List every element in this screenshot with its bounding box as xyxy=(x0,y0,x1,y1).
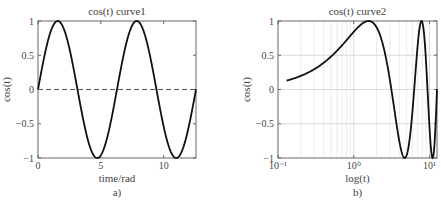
y-tick-label: −1 xyxy=(23,153,34,164)
y-tick-label: −0.5 xyxy=(16,118,34,129)
x-axis-label: time/rad xyxy=(99,172,136,184)
chart-panel-1: 0510−1−0.500.51cos(t) curve1time/rada)co… xyxy=(0,5,196,199)
panel-label: b) xyxy=(353,186,363,199)
y-tick-label: 1 xyxy=(29,16,34,27)
chart-title: cos(t) curve1 xyxy=(88,5,146,18)
y-tick-label: 1 xyxy=(269,16,274,27)
x-tick-label: 10 xyxy=(159,160,169,171)
x-tick-label: 10¹ xyxy=(423,160,436,171)
x-tick-label: 0 xyxy=(36,160,41,171)
chart-title: cos(t) curve2 xyxy=(329,5,387,18)
x-axis-label: log(t) xyxy=(345,172,370,185)
y-axis-label: cos(t) xyxy=(0,77,13,102)
chart-figure: 0510−1−0.500.51cos(t) curve1time/rada)co… xyxy=(0,0,441,211)
y-tick-label: 0.5 xyxy=(262,50,275,61)
curve-line xyxy=(38,21,196,158)
y-tick-label: 0 xyxy=(29,84,34,95)
grid xyxy=(278,21,437,158)
chart-panel-2: 10⁻¹10⁰10¹−1−0.500.51cos(t) curve2log(t)… xyxy=(240,5,437,199)
y-tick-label: 0.5 xyxy=(22,50,35,61)
y-tick-label: 0 xyxy=(269,84,274,95)
panel-label: a) xyxy=(113,186,122,199)
y-tick-label: −0.5 xyxy=(256,118,274,129)
y-tick-label: −1 xyxy=(263,153,274,164)
x-tick-label: 10⁰ xyxy=(347,160,361,171)
x-tick-label: 5 xyxy=(98,160,103,171)
y-axis-label: cos(t) xyxy=(240,77,253,102)
